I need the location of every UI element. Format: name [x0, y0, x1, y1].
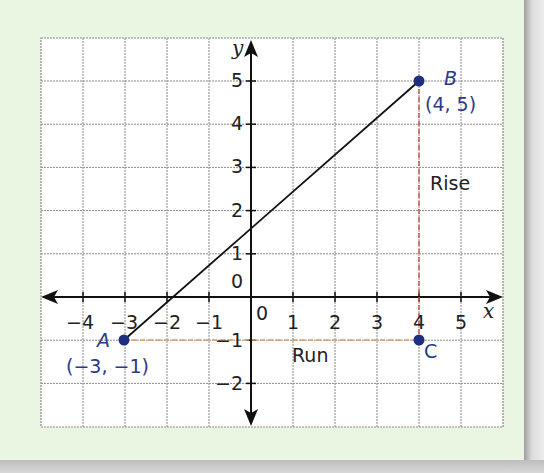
- point-c-label: C: [424, 340, 437, 362]
- x-tick-label: −4: [66, 311, 94, 333]
- point-b: [414, 76, 425, 87]
- point-c: [414, 335, 425, 346]
- point-a-label: A: [95, 329, 110, 351]
- y-tick-label: 1: [231, 242, 243, 264]
- y-tick-label: −2: [215, 372, 243, 394]
- x-tick-label: −3: [110, 311, 138, 333]
- x-tick-label: 1: [287, 311, 299, 333]
- y-tick-label: 3: [231, 155, 243, 177]
- y-tick-label: 5: [231, 69, 243, 91]
- y-tick-label: −1: [215, 329, 243, 351]
- run-label: Run: [292, 344, 328, 366]
- point-b-coordinates: (4, 5): [425, 93, 476, 115]
- x-origin-label: 0: [256, 302, 268, 324]
- x-tick-label: 4: [413, 311, 425, 333]
- x-axis-label: x: [483, 299, 494, 323]
- y-tick-label: 2: [231, 199, 243, 221]
- point-a: [119, 335, 130, 346]
- y-tick-label: 4: [231, 112, 243, 134]
- coordinate-plane: −4 −3 −2 −1 0 1 2 3 4 5 5 4 3 2 1 0 −1 −…: [0, 0, 544, 473]
- x-tick-label: 5: [455, 311, 467, 333]
- y-origin-label: 0: [231, 270, 243, 292]
- x-tick-label: 3: [371, 311, 383, 333]
- rise-label: Rise: [430, 172, 470, 194]
- point-b-label: B: [444, 67, 457, 89]
- point-a-coordinates: (−3, −1): [66, 355, 149, 377]
- x-tick-label: −2: [153, 311, 181, 333]
- x-tick-label: 2: [329, 311, 341, 333]
- y-axis-label: y: [231, 36, 244, 60]
